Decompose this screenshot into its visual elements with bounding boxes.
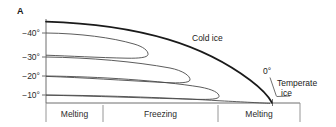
zone-label-melting-right: Melting <box>218 109 300 119</box>
cold-ice-envelope <box>46 22 272 103</box>
y-tick-label-minus-40: −40° <box>0 28 40 38</box>
cold-ice-label: Cold ice <box>192 33 223 43</box>
y-tick-label-minus-30: −30° <box>0 52 40 62</box>
temperate-ice-label-line2: ice <box>281 88 292 98</box>
isotherm-minus-20 <box>46 76 219 99</box>
temperate-ice-label-line1: Temperate <box>277 78 317 88</box>
y-tick-label-minus-20: −20° <box>0 71 40 81</box>
y-axis-ticks <box>42 33 46 95</box>
figure-panel-a: A <box>0 0 336 127</box>
zero-degree-leader-line <box>270 78 277 97</box>
y-tick-label-minus-10: −10° <box>0 90 40 100</box>
isotherm-minus-40 <box>46 33 148 58</box>
isotherm-minus-30 <box>46 57 190 83</box>
zero-degree-label: 0° <box>263 66 271 76</box>
isotherm-plot <box>0 0 336 127</box>
zone-label-melting-left: Melting <box>46 109 103 119</box>
zone-label-freezing: Freezing <box>103 109 218 119</box>
